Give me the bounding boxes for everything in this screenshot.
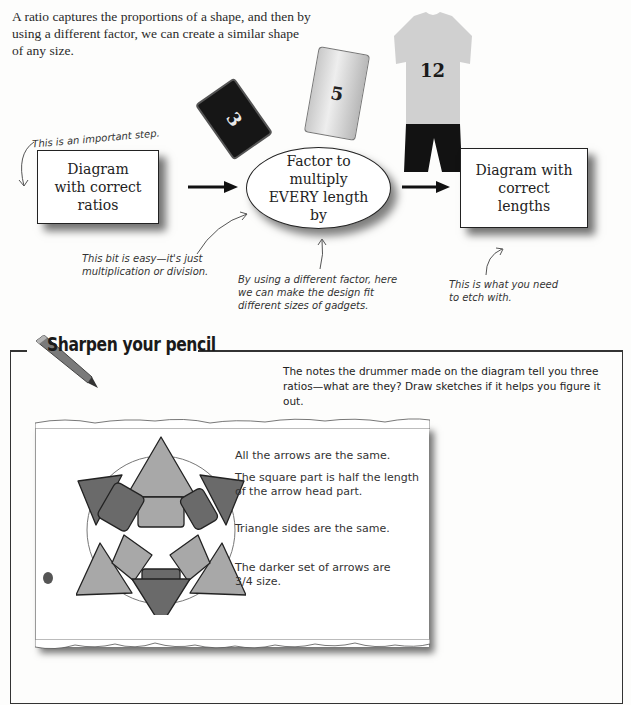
frame-top-right bbox=[198, 350, 622, 352]
exercise-instructions: The notes the drummer made on the diagra… bbox=[283, 364, 623, 409]
torn-edge-bottom bbox=[35, 639, 430, 653]
drummer-notes-paper: All the arrows are the same. The square … bbox=[35, 425, 429, 647]
gadget-card-grey: 5 bbox=[304, 46, 370, 141]
star-design-icon bbox=[76, 435, 246, 615]
torn-edge-top bbox=[35, 417, 430, 429]
annotation-etch: This is what you need to etch with. bbox=[449, 278, 559, 304]
annotation-different-factor: By using a different factor, here we can… bbox=[238, 273, 408, 312]
note-triangle-sides: Triangle sides are the same. bbox=[235, 522, 420, 536]
gadget-card-black: 3 bbox=[195, 77, 273, 160]
annotation-easy: This bit is easy—it's just multiplicatio… bbox=[82, 252, 212, 278]
gadget-number: 5 bbox=[329, 82, 345, 105]
gadget-number: 3 bbox=[222, 108, 246, 130]
note-square-half: The square part is half the length of th… bbox=[235, 471, 420, 499]
diagram-lengths-box: Diagram with correct lengths bbox=[460, 148, 588, 228]
annotation-important-step: This is an important step. bbox=[32, 126, 160, 150]
binder-hole bbox=[43, 572, 53, 584]
arrow-right-icon bbox=[188, 180, 238, 194]
pointer-arrow-icon bbox=[195, 210, 255, 255]
note-arrows-same: All the arrows are the same. bbox=[235, 449, 420, 463]
pointer-arrow-icon bbox=[316, 238, 328, 270]
exercise-title: Sharpen your pencil bbox=[47, 333, 216, 355]
arrow-right-icon bbox=[402, 180, 450, 194]
factor-ellipse: Factor to multiply EVERY length by bbox=[246, 147, 391, 229]
note-darker-arrows: The darker set of arrows are 3/4 size. bbox=[235, 561, 405, 589]
diagram-ratios-box: Diagram with correct ratios bbox=[37, 150, 159, 224]
pointer-arrow-icon bbox=[484, 246, 506, 276]
tshirt-number: 12 bbox=[420, 60, 445, 81]
intro-paragraph: A ratio captures the proportions of a sh… bbox=[12, 8, 312, 59]
frame-top-left bbox=[10, 350, 27, 352]
